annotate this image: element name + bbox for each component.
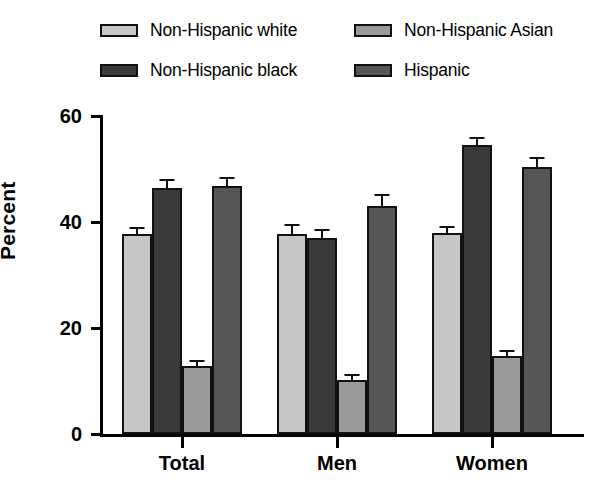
error-bar-cap (285, 224, 300, 226)
x-tick-mark (181, 437, 184, 448)
bar (307, 238, 337, 434)
error-bar (212, 177, 242, 186)
x-tick-mark (491, 437, 494, 448)
chart-figure: Non-Hispanic white Non-Hispanic black No… (0, 0, 592, 498)
bar (492, 356, 522, 434)
error-bar-cap (470, 137, 485, 139)
x-tick-mark (336, 437, 339, 448)
legend-label-series-3: Hispanic (404, 62, 470, 80)
error-bar-cap (440, 226, 455, 228)
error-bar-cap (375, 194, 390, 196)
bar (122, 234, 152, 434)
error-bar (462, 137, 492, 145)
plot-area: Percent 0204060 TotalMenWomen (0, 104, 592, 498)
error-bar (367, 194, 397, 206)
error-bar-cap (190, 360, 205, 362)
legend-label-series-1: Non-Hispanic black (150, 62, 297, 80)
error-bar-cap (315, 229, 330, 231)
legend-item-non-hispanic-black: Non-Hispanic black (100, 62, 297, 80)
error-bar (307, 229, 337, 238)
error-bar-cap (130, 227, 145, 229)
x-tick-label: Women (456, 452, 528, 475)
error-bar-cap (530, 157, 545, 159)
error-bar (122, 227, 152, 234)
y-tick-mark (91, 115, 101, 118)
error-bar (152, 179, 182, 187)
legend-swatch-icon-series-1 (100, 64, 138, 77)
error-bar (432, 226, 462, 233)
error-bar (182, 360, 212, 366)
y-tick-mark (91, 433, 101, 436)
legend-label-series-0: Non-Hispanic white (150, 22, 297, 40)
bar (432, 233, 462, 434)
error-bar-cap (345, 374, 360, 376)
legend-swatch-icon-series-0 (100, 24, 138, 37)
bar (277, 234, 307, 434)
bar (522, 167, 552, 434)
error-bar-cap (500, 350, 515, 352)
bar (212, 186, 242, 434)
legend-swatch-icon-series-2 (354, 24, 392, 37)
bar (462, 145, 492, 434)
y-tick-mark (91, 221, 101, 224)
legend-item-non-hispanic-asian: Non-Hispanic Asian (354, 22, 553, 40)
chart-legend: Non-Hispanic white Non-Hispanic black No… (92, 18, 592, 92)
y-tick-mark (91, 327, 101, 330)
x-tick-label: Total (159, 452, 205, 475)
legend-item-hispanic: Hispanic (354, 62, 470, 80)
legend-swatch-icon-series-3 (354, 64, 392, 77)
bar (152, 188, 182, 434)
error-bar-cap (220, 177, 235, 179)
error-bar (277, 224, 307, 234)
bar (182, 366, 212, 434)
bar (367, 206, 397, 434)
x-tick-label: Men (317, 452, 357, 475)
error-bar (337, 374, 367, 380)
error-bar (492, 350, 522, 356)
legend-label-series-2: Non-Hispanic Asian (404, 22, 553, 40)
error-bar-cap (160, 179, 175, 181)
legend-item-non-hispanic-white: Non-Hispanic white (100, 22, 297, 40)
bar (337, 380, 367, 434)
error-bar (522, 157, 552, 167)
bars-layer (0, 104, 592, 444)
